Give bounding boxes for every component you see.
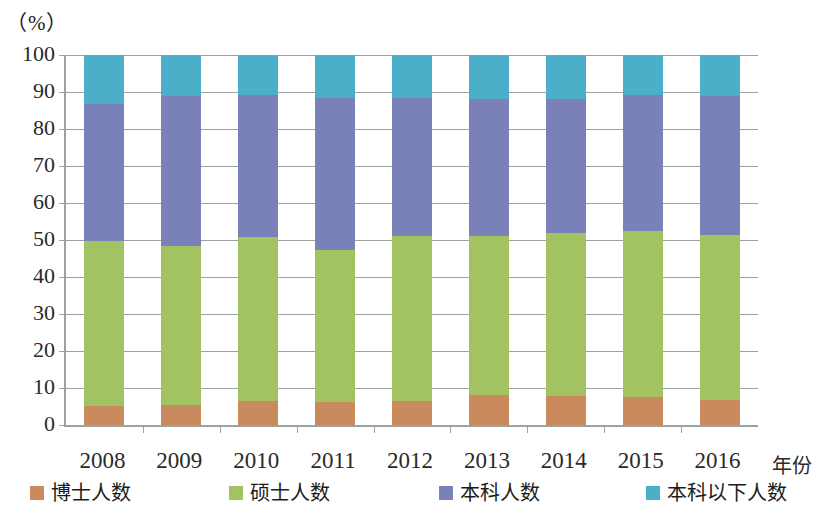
chart-legend: 博士人数硕士人数本科人数本科以下人数 [0, 483, 820, 508]
legend-item[interactable]: 本科以下人数 [646, 483, 787, 503]
bar-segment[interactable] [546, 396, 586, 425]
bar-segment[interactable] [161, 246, 201, 405]
bar-segment[interactable] [84, 104, 124, 241]
bar-segment[interactable] [700, 96, 740, 235]
bar-segment[interactable] [469, 99, 509, 236]
bar-stack [623, 55, 663, 425]
bar-segment[interactable] [238, 95, 278, 237]
bar-segment[interactable] [469, 236, 509, 396]
bar-group[interactable] [161, 55, 201, 425]
legend-label: 本科以下人数 [667, 483, 787, 503]
y-axis-tick-mark [59, 203, 66, 204]
y-axis-unit-label: （%） [6, 6, 69, 36]
bar-segment[interactable] [623, 397, 663, 425]
legend-swatch-icon [229, 486, 243, 500]
bar-segment[interactable] [84, 55, 124, 104]
y-axis-tick-label: 20 [33, 337, 55, 363]
bar-segment[interactable] [315, 98, 355, 251]
bar-segment[interactable] [469, 55, 509, 99]
y-axis-tick-label: 80 [33, 115, 55, 141]
bar-segment[interactable] [84, 241, 124, 406]
x-axis-tick-label: 2008 [79, 448, 125, 474]
bar-segment[interactable] [546, 55, 586, 99]
bar-segment[interactable] [546, 99, 586, 232]
bar-segment[interactable] [315, 250, 355, 402]
y-axis-tick-label: 30 [33, 300, 55, 326]
plot-area: 0102030405060708090100 [64, 55, 758, 427]
y-axis-tick-mark [59, 277, 66, 278]
bar-group[interactable] [546, 55, 586, 425]
legend-swatch-icon [439, 486, 453, 500]
x-axis-tick-label: 2012 [387, 448, 433, 474]
x-axis-tick-mark [681, 425, 682, 433]
bar-segment[interactable] [161, 55, 201, 96]
legend-swatch-icon [30, 486, 44, 500]
x-axis-tick-mark [450, 425, 451, 433]
legend-label: 硕士人数 [250, 483, 330, 503]
bar-segment[interactable] [392, 236, 432, 400]
bar-stack [546, 55, 586, 425]
legend-item[interactable]: 硕士人数 [229, 483, 330, 503]
bar-group[interactable] [315, 55, 355, 425]
bar-segment[interactable] [161, 96, 201, 245]
legend-item[interactable]: 本科人数 [439, 483, 540, 503]
bar-stack [161, 55, 201, 425]
bar-segment[interactable] [392, 98, 432, 236]
x-axis-tick-mark [374, 425, 375, 433]
x-axis-tick-label: 2010 [233, 448, 279, 474]
y-axis-tick-label: 0 [44, 411, 55, 437]
x-axis-ticks [66, 425, 758, 433]
legend-label: 博士人数 [51, 483, 131, 503]
y-axis-tick-mark [59, 425, 66, 426]
y-axis-tick-label: 10 [33, 374, 55, 400]
bar-group[interactable] [392, 55, 432, 425]
bar-segment[interactable] [315, 55, 355, 98]
bar-segment[interactable] [84, 406, 124, 425]
bar-segment[interactable] [392, 55, 432, 98]
bar-stack [700, 55, 740, 425]
bar-segment[interactable] [392, 401, 432, 425]
bar-segment[interactable] [315, 402, 355, 425]
bar-segment[interactable] [700, 400, 740, 425]
x-axis-title: 年份 [772, 450, 812, 479]
bar-segment[interactable] [623, 55, 663, 95]
x-axis-tick-mark [604, 425, 605, 433]
bar-segment[interactable] [238, 237, 278, 401]
bar-segment[interactable] [700, 55, 740, 96]
legend-label: 本科人数 [460, 483, 540, 503]
x-axis-tick-label: 2011 [311, 448, 356, 474]
bar-group[interactable] [84, 55, 124, 425]
bar-segment[interactable] [238, 401, 278, 425]
x-axis-tick-label: 2013 [464, 448, 510, 474]
bar-segment[interactable] [700, 235, 740, 400]
bar-segment[interactable] [238, 55, 278, 95]
bar-group[interactable] [700, 55, 740, 425]
y-axis-tick-mark [59, 314, 66, 315]
bar-segment[interactable] [623, 95, 663, 231]
y-axis-tick-label: 50 [33, 226, 55, 252]
x-axis-tick-mark [143, 425, 144, 433]
y-axis-tick-mark [59, 166, 66, 167]
bar-stack [392, 55, 432, 425]
y-axis-tick-label: 90 [33, 78, 55, 104]
y-axis-tick-mark [59, 240, 66, 241]
legend-item[interactable]: 博士人数 [30, 483, 131, 503]
x-axis-tick-label: 2015 [618, 448, 664, 474]
x-axis-tick-label: 2014 [541, 448, 587, 474]
bar-group[interactable] [623, 55, 663, 425]
bar-group[interactable] [238, 55, 278, 425]
bar-stack [84, 55, 124, 425]
y-axis-tick-label: 60 [33, 189, 55, 215]
bar-segment[interactable] [161, 405, 201, 425]
bar-segment[interactable] [623, 231, 663, 398]
bar-segment[interactable] [469, 395, 509, 425]
bar-stack [315, 55, 355, 425]
bar-group[interactable] [469, 55, 509, 425]
legend-swatch-icon [646, 486, 660, 500]
x-axis-tick-mark [297, 425, 298, 433]
y-axis-tick-label: 70 [33, 152, 55, 178]
x-axis-tick-label: 2016 [695, 448, 741, 474]
y-axis-tick-mark [59, 388, 66, 389]
bar-segment[interactable] [546, 233, 586, 397]
y-axis-tick-mark [59, 92, 66, 93]
